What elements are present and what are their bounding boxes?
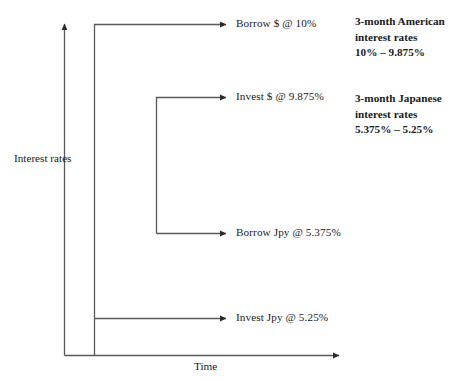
flow-label-invest-usd: Invest $ @ 9.875%: [236, 89, 324, 104]
note-american-rates: 3-month American interest rates 10% – 9.…: [355, 14, 445, 61]
note-japanese-line2: interest rates: [355, 107, 442, 123]
note-japanese-rates: 3-month Japanese interest rates 5.375% –…: [355, 91, 442, 138]
y-axis-label-line2: rates: [50, 152, 71, 164]
x-axis-label: Time: [194, 359, 217, 374]
y-axis-label-line1: Interest: [14, 152, 48, 164]
note-american-line2: interest rates: [355, 30, 445, 46]
note-japanese-line1: 3-month Japanese: [355, 91, 442, 107]
flow-label-borrow-jpy: Borrow Jpy @ 5.375%: [236, 225, 341, 240]
note-american-line1: 3-month American: [355, 14, 445, 30]
note-japanese-line3: 5.375% – 5.25%: [355, 122, 442, 138]
note-american-line3: 10% – 9.875%: [355, 45, 445, 61]
y-axis-label: Interest rates: [14, 151, 71, 166]
interest-rate-arbitrage-diagram: Interest rates Time Borrow $ @ 10% Inves…: [0, 0, 457, 381]
flow-line-invest-usd: [157, 98, 227, 234]
flow-label-invest-jpy: Invest Jpy @ 5.25%: [236, 310, 328, 325]
flow-label-borrow-usd: Borrow $ @ 10%: [236, 16, 316, 31]
flow-line-borrow-usd: [95, 25, 227, 356]
